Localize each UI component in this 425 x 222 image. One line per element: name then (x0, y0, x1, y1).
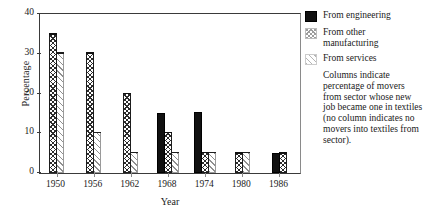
diagonal-lines-swatch-icon (305, 54, 317, 65)
legend-label-engineering: From engineering (323, 10, 391, 21)
x-tick-label: 1974 (184, 179, 224, 190)
bar-chart-figure: Percentage 010203040 1950195619621968197… (0, 0, 425, 222)
x-tick-label: 1986 (258, 179, 298, 190)
plot-area (40, 14, 300, 173)
bar-group (86, 14, 101, 173)
legend-item-other-manufacturing: From other manufacturing (305, 27, 423, 48)
bar (194, 112, 202, 173)
x-tick-label: 1950 (36, 179, 76, 190)
bar-group (235, 14, 250, 173)
x-axis-tick-labels: 1950195619621968197419801986 (39, 179, 301, 193)
y-tick-label: 20 (8, 88, 34, 98)
x-tick-mark (205, 173, 206, 177)
chart-legend: From engineering From other manufacturin… (305, 10, 423, 146)
y-tick-label: 40 (8, 8, 34, 18)
plot-frame (39, 13, 301, 174)
bar (86, 52, 94, 173)
y-tick-label: 0 (8, 167, 34, 177)
bar (164, 132, 172, 173)
y-tick-label: 10 (8, 128, 34, 138)
bar (93, 132, 101, 173)
y-axis-tick-labels: 010203040 (4, 0, 34, 222)
legend-label-services: From services (323, 53, 377, 64)
bar-group (272, 14, 287, 173)
cross-hatch-swatch-icon (305, 28, 317, 39)
y-tick-mark (37, 172, 41, 173)
bar-group (49, 14, 64, 173)
x-tick-label: 1956 (73, 179, 113, 190)
legend-note: Columns indicate percentage of movers fr… (323, 70, 423, 146)
x-axis-title: Year (39, 196, 301, 207)
legend-item-engineering: From engineering (305, 10, 423, 22)
bar (208, 152, 216, 173)
y-tick-mark (37, 53, 41, 54)
x-tick-mark (242, 173, 243, 177)
bar (56, 52, 64, 173)
y-tick-mark (37, 132, 41, 133)
x-tick-label: 1980 (221, 179, 261, 190)
y-tick-mark (37, 93, 41, 94)
x-tick-label: 1968 (147, 179, 187, 190)
bar (272, 153, 280, 173)
x-tick-mark (168, 173, 169, 177)
bar-group (123, 14, 138, 173)
bar-group (194, 14, 216, 173)
bar (242, 152, 250, 173)
bar (279, 152, 287, 173)
legend-item-services: From services (305, 53, 423, 65)
bar (157, 113, 165, 173)
bar (171, 152, 179, 173)
y-tick-label: 30 (8, 48, 34, 58)
bar (130, 152, 138, 173)
x-tick-mark (279, 173, 280, 177)
legend-label-other-manufacturing: From other manufacturing (323, 27, 423, 48)
bar-group (157, 14, 179, 173)
bar (49, 33, 57, 173)
x-tick-mark (57, 173, 58, 177)
y-tick-mark (37, 13, 41, 14)
x-tick-mark (131, 173, 132, 177)
x-tick-label: 1962 (110, 179, 150, 190)
bar (235, 152, 243, 173)
bar (201, 152, 209, 173)
bar (123, 93, 131, 173)
x-tick-mark (94, 173, 95, 177)
solid-black-swatch-icon (305, 11, 317, 22)
